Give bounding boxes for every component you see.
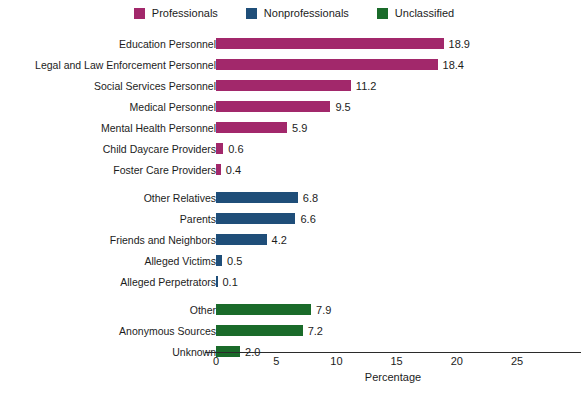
bar-value-label: 6.8 [303, 192, 318, 204]
bar-value-label: 0.6 [228, 143, 243, 155]
bar-value-label: 11.2 [356, 80, 377, 92]
bar-container: 4.2 [216, 229, 287, 250]
x-tick-label: 15 [390, 355, 402, 367]
bar-container: 18.4 [216, 54, 464, 75]
legend-item-label: Nonprofessionals [264, 8, 349, 19]
bar-container: 11.2 [216, 75, 376, 96]
category-label: Foster Care Providers [6, 164, 216, 176]
category-label: Other [6, 304, 216, 316]
bar-container: 0.1 [216, 271, 238, 292]
x-tick-label: 25 [511, 355, 523, 367]
bar-container: 18.9 [216, 33, 470, 54]
bar-row: Medical Personnel9.5 [0, 96, 588, 117]
category-label: Child Daycare Providers [6, 143, 216, 155]
bar-value-label: 9.5 [335, 101, 350, 113]
category-label: Other Relatives [6, 192, 216, 204]
legend-item: Unclassified [377, 8, 454, 19]
bar-container: 6.6 [216, 208, 316, 229]
bar [216, 276, 218, 287]
bar [216, 234, 267, 245]
bar [216, 38, 444, 49]
bar-value-label: 18.4 [443, 59, 464, 71]
category-label: Alleged Victims [6, 255, 216, 267]
bar-value-label: 5.9 [292, 122, 307, 134]
bar-row: Anonymous Sources7.2 [0, 320, 588, 341]
bar-container: 9.5 [216, 96, 351, 117]
bar [216, 101, 330, 112]
bar-row: Foster Care Providers0.4 [0, 159, 588, 180]
bar-chart: ProfessionalsNonprofessionalsUnclassifie… [0, 0, 588, 394]
bar-container: 5.9 [216, 117, 307, 138]
bar-row: Social Services Personnel11.2 [0, 75, 588, 96]
bar [216, 192, 298, 203]
bar-row: Education Personnel18.9 [0, 33, 588, 54]
bar-row: Mental Health Personnel5.9 [0, 117, 588, 138]
category-label: Alleged Perpetrators [6, 276, 216, 288]
x-axis-title-label: Percentage [365, 371, 421, 383]
bar-value-label: 7.9 [316, 304, 331, 316]
category-label: Mental Health Personnel [6, 122, 216, 134]
chart-legend: ProfessionalsNonprofessionalsUnclassifie… [0, 8, 588, 19]
x-tick-label: 20 [451, 355, 463, 367]
category-label: Medical Personnel [6, 101, 216, 113]
bar-container: 6.8 [216, 187, 318, 208]
bar-row: Legal and Law Enforcement Personnel18.4 [0, 54, 588, 75]
bar-value-label: 6.6 [300, 213, 315, 225]
legend-swatch-icon [134, 8, 145, 19]
bar-container: 0.6 [216, 138, 244, 159]
x-axis-ticks: 0510152025 [0, 355, 588, 371]
x-tick-label: 10 [330, 355, 342, 367]
legend-item-label: Unclassified [395, 8, 454, 19]
bar-container: 7.9 [216, 299, 331, 320]
bar-value-label: 0.5 [227, 255, 242, 267]
category-label: Legal and Law Enforcement Personnel [6, 59, 216, 71]
legend-item: Nonprofessionals [246, 8, 349, 19]
bar-value-label: 0.1 [223, 276, 238, 288]
category-label: Friends and Neighbors [6, 234, 216, 246]
bar [216, 143, 223, 154]
bar-row: Friends and Neighbors4.2 [0, 229, 588, 250]
category-label: Education Personnel [6, 38, 216, 50]
bar-container: 0.5 [216, 250, 242, 271]
bar [216, 325, 303, 336]
bar-rows: Education Personnel18.9Legal and Law Enf… [0, 33, 588, 362]
category-label: Social Services Personnel [6, 80, 216, 92]
bar [216, 304, 311, 315]
bar-value-label: 7.2 [308, 325, 323, 337]
bar-container: 0.4 [216, 159, 241, 180]
bar [216, 122, 287, 133]
bar-row: Alleged Victims0.5 [0, 250, 588, 271]
legend-swatch-icon [377, 8, 388, 19]
x-tick-label: 0 [213, 355, 219, 367]
legend-item: Professionals [134, 8, 218, 19]
bar-value-label: 4.2 [272, 234, 287, 246]
bar-value-label: 18.9 [449, 38, 470, 50]
x-axis-title: Percentage [205, 371, 581, 383]
bar-value-label: 0.4 [226, 164, 241, 176]
bar-row: Child Daycare Providers0.6 [0, 138, 588, 159]
legend-swatch-icon [246, 8, 257, 19]
bar [216, 80, 351, 91]
x-axis-line [205, 352, 581, 353]
category-label: Anonymous Sources [6, 325, 216, 337]
legend-item-label: Professionals [152, 8, 218, 19]
bar [216, 164, 221, 175]
plot-area: Education Personnel18.9Legal and Law Enf… [0, 33, 588, 352]
bar-container: 7.2 [216, 320, 323, 341]
bar [216, 59, 438, 70]
bar-row: Parents6.6 [0, 208, 588, 229]
x-tick-label: 5 [273, 355, 279, 367]
bar [216, 213, 295, 224]
bar-row: Other7.9 [0, 299, 588, 320]
bar-row: Other Relatives6.8 [0, 187, 588, 208]
bar [216, 255, 222, 266]
category-label: Parents [6, 213, 216, 225]
bar-row: Alleged Perpetrators0.1 [0, 271, 588, 292]
